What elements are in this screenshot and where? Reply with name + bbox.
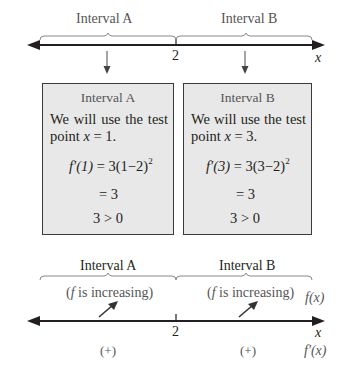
test-point-box-a: Interval A We will use the test point x … xyxy=(42,83,174,235)
increasing-arrow-icon xyxy=(99,301,118,317)
equation-2: = 3 xyxy=(99,186,118,203)
row-label-f: f(x) xyxy=(305,290,324,306)
equation-2: = 3 xyxy=(236,186,255,203)
brace-interval-b xyxy=(176,33,312,40)
text-prefix: point xyxy=(50,128,83,144)
top-interval-b-label: Interval B xyxy=(221,11,277,27)
right-arrow-icon xyxy=(312,40,325,50)
text-prefix: point xyxy=(191,128,224,144)
box-text-line2: point x = 3. xyxy=(191,128,257,145)
brace-interval-b xyxy=(176,273,312,280)
conclusion: 3 > 0 xyxy=(93,210,123,227)
bottom-interval-b-label: Interval B xyxy=(219,258,275,274)
brace-interval-a xyxy=(40,33,176,40)
eq-lhs: f′(1) xyxy=(69,158,93,174)
conclusion: 3 > 0 xyxy=(230,210,260,227)
eq-lhs: f′(3) xyxy=(206,158,230,174)
behavior-interval-b: (f is increasing) xyxy=(207,285,294,301)
bottom-tick-label: 2 xyxy=(172,324,179,340)
bottom-interval-a-label: Interval A xyxy=(80,258,136,274)
brace-interval-a xyxy=(40,273,176,280)
bottom-axis-label: x xyxy=(315,325,321,341)
box-title: Interval A xyxy=(43,90,173,106)
eq-rhs: = 3(1−2) xyxy=(93,158,148,174)
behavior-interval-a: (f is increasing) xyxy=(66,285,153,301)
equation-1: f′(1) = 3(1−2)2 xyxy=(69,156,153,175)
row-label-fprime: f′(x) xyxy=(304,343,327,359)
left-arrow-icon xyxy=(27,316,40,326)
box-title: Interval B xyxy=(184,90,311,106)
test-point-box-b: Interval B We will use the test point x … xyxy=(183,83,312,235)
eq-exponent: 2 xyxy=(148,156,153,166)
eq-rhs: = 3(3−2) xyxy=(230,158,285,174)
down-arrow-icon xyxy=(104,51,111,74)
sign-interval-a: (+) xyxy=(100,343,116,359)
behavior-text: is increasing) xyxy=(75,285,154,300)
top-axis-label: x xyxy=(315,50,321,66)
left-arrow-icon xyxy=(27,40,40,50)
top-interval-a-label: Interval A xyxy=(76,11,132,27)
test-value: = 3. xyxy=(231,128,257,144)
box-text-line1: We will use the test xyxy=(191,111,306,128)
behavior-text: is increasing) xyxy=(216,285,295,300)
top-tick-label: 2 xyxy=(172,48,179,64)
down-arrow-icon xyxy=(242,51,249,74)
eq-exponent: 2 xyxy=(285,156,290,166)
box-text-line1: We will use the test xyxy=(50,111,168,128)
equation-1: f′(3) = 3(3−2)2 xyxy=(206,156,290,175)
box-text-line2: point x = 1. xyxy=(50,128,116,145)
increasing-arrow-icon xyxy=(239,301,258,317)
test-value: = 1. xyxy=(90,128,116,144)
sign-interval-b: (+) xyxy=(240,343,256,359)
